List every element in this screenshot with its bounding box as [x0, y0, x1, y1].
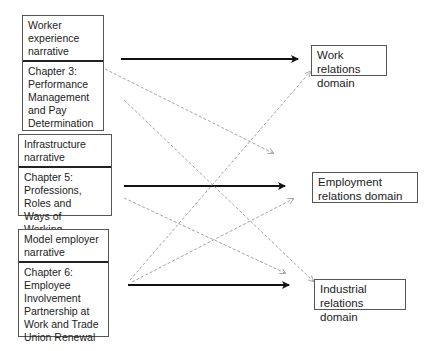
domain-box-industrial-relations: Industrial relations domain — [314, 279, 406, 310]
chapter-label: Chapter 3: Performance Management and Pa… — [28, 65, 98, 130]
narrative-title: Worker experience narrative — [23, 16, 103, 62]
chapter-label: Chapter 5: Professions, Roles and Ways o… — [24, 171, 98, 236]
weak-arrow-ch6-to-work — [130, 72, 310, 280]
weak-arrow-ch6-to-employment — [132, 199, 293, 282]
narrative-box-worker-experience: Worker experience narrative Chapter 3: P… — [22, 15, 104, 131]
weak-arrow-ch5-to-industrial — [124, 198, 285, 273]
weak-arrow-ch3-to-employment — [105, 69, 273, 153]
chapter-label: Chapter 6: Employee Involvement Partners… — [24, 266, 103, 344]
narrative-box-infrastructure: Infrastructure narrative Chapter 5: Prof… — [18, 134, 112, 216]
domain-box-work-relations: Work relations domain — [311, 45, 387, 76]
narrative-title: Infrastructure narrative — [19, 135, 111, 168]
weak-arrow-ch4-to-industrial — [124, 100, 313, 281]
domain-box-employment-relations: Employment relations domain — [312, 172, 418, 203]
narrative-title: Model employer narrative — [19, 230, 108, 263]
narrative-box-model-employer: Model employer narrative Chapter 6: Empl… — [18, 229, 109, 337]
